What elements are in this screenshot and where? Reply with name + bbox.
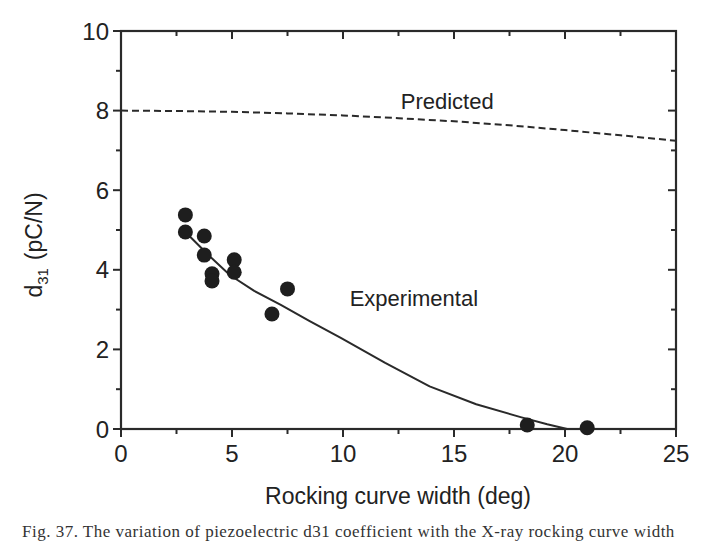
x-tick-label: 20 xyxy=(552,440,579,467)
x-tick-label: 25 xyxy=(663,440,690,467)
y-axis-title: d31(pC/N) xyxy=(21,192,51,297)
svg-text:d31(pC/N): d31(pC/N) xyxy=(21,192,51,297)
figure-caption: Fig. 37. The variation of piezoelectric … xyxy=(22,522,675,542)
y-tick-label: 4 xyxy=(96,256,109,283)
y-axis-title-subscript: 31 xyxy=(34,268,51,285)
x-tick-label: 0 xyxy=(114,440,127,467)
x-tick-label: 5 xyxy=(225,440,238,467)
y-tick-label: 0 xyxy=(96,416,109,443)
x-tick-label: 10 xyxy=(330,440,357,467)
y-tick-label: 8 xyxy=(96,97,109,124)
data-point xyxy=(280,281,295,296)
data-point xyxy=(178,224,193,239)
annotation-experimental: Experimental xyxy=(350,286,478,311)
predicted-curve xyxy=(121,111,676,141)
data-point xyxy=(205,273,220,288)
data-point xyxy=(197,228,212,243)
y-tick-label: 2 xyxy=(96,336,109,363)
data-point xyxy=(580,420,595,435)
y-axis-title-units: (pC/N) xyxy=(21,192,47,260)
experimental-fit-curve xyxy=(185,232,567,429)
annotation-predicted: Predicted xyxy=(401,89,494,114)
annotations: PredictedExperimental xyxy=(350,89,494,312)
x-tick-label: 15 xyxy=(441,440,468,467)
y-axis-ticks: 0246810 xyxy=(82,18,676,443)
data-point xyxy=(178,207,193,222)
data-point xyxy=(520,418,535,433)
x-axis-title: Rocking curve width (deg) xyxy=(265,483,531,509)
y-tick-label: 10 xyxy=(82,18,109,45)
y-tick-label: 6 xyxy=(96,177,109,204)
data-point xyxy=(227,265,242,280)
data-point xyxy=(197,248,212,263)
y-axis-title-symbol: d xyxy=(21,285,47,298)
data-point xyxy=(264,306,279,321)
series-layer xyxy=(121,111,676,436)
